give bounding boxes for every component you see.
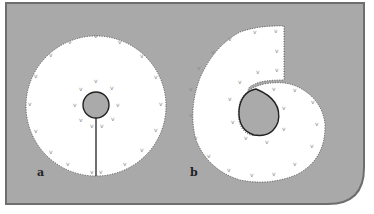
svg-text:v: v xyxy=(94,32,98,39)
svg-text:v: v xyxy=(34,72,38,79)
svg-text:v: v xyxy=(293,86,297,93)
panel-label-b: b xyxy=(190,166,198,179)
svg-text:v: v xyxy=(123,160,127,167)
svg-text:v: v xyxy=(49,51,53,58)
svg-text:v: v xyxy=(73,101,77,108)
svg-text:v: v xyxy=(250,171,254,178)
svg-text:v: v xyxy=(282,125,286,132)
svg-text:v: v xyxy=(28,100,32,107)
svg-text:v: v xyxy=(159,100,163,107)
svg-text:v: v xyxy=(275,47,279,54)
svg-text:v: v xyxy=(118,38,122,45)
svg-text:v: v xyxy=(90,168,94,175)
svg-text:v: v xyxy=(90,122,94,129)
svg-text:v: v xyxy=(79,85,83,92)
svg-text:v: v xyxy=(227,166,231,173)
svg-text:v: v xyxy=(282,104,286,111)
svg-text:v: v xyxy=(244,134,248,141)
svg-text:v: v xyxy=(272,85,276,92)
svg-text:v: v xyxy=(189,85,193,92)
svg-text:v: v xyxy=(68,38,72,45)
svg-text:v: v xyxy=(66,160,70,167)
svg-text:v: v xyxy=(154,73,158,80)
svg-text:v: v xyxy=(256,68,260,75)
svg-text:v: v xyxy=(197,64,201,71)
svg-text:v: v xyxy=(99,168,103,175)
svg-text:v: v xyxy=(34,127,38,134)
figure: v v v v v v v v v v v v v v v v v v v v … xyxy=(0,0,374,214)
svg-text:v: v xyxy=(111,115,115,122)
svg-text:v: v xyxy=(275,66,279,73)
svg-text:v: v xyxy=(211,48,215,55)
svg-text:v: v xyxy=(310,142,314,149)
svg-text:v: v xyxy=(265,138,269,145)
svg-text:v: v xyxy=(49,148,53,155)
svg-text:v: v xyxy=(79,116,83,123)
svg-text:v: v xyxy=(228,35,232,42)
central-hole-a xyxy=(83,92,109,118)
svg-text:v: v xyxy=(231,118,235,125)
svg-text:v: v xyxy=(116,101,120,108)
svg-text:v: v xyxy=(272,170,276,177)
svg-text:v: v xyxy=(140,52,144,59)
svg-text:v: v xyxy=(238,78,242,85)
svg-text:v: v xyxy=(293,160,297,167)
svg-text:v: v xyxy=(253,28,257,35)
svg-text:v: v xyxy=(100,122,104,129)
svg-text:v: v xyxy=(94,77,98,84)
svg-text:v: v xyxy=(189,111,193,118)
svg-text:v: v xyxy=(194,134,198,141)
svg-text:v: v xyxy=(228,95,232,102)
svg-text:v: v xyxy=(154,126,158,133)
panel-label-a: a xyxy=(37,166,44,179)
svg-text:v: v xyxy=(274,27,278,34)
svg-text:v: v xyxy=(315,120,319,127)
svg-text:v: v xyxy=(140,146,144,153)
svg-text:v: v xyxy=(207,152,211,159)
svg-text:v: v xyxy=(311,98,315,105)
svg-text:v: v xyxy=(110,84,114,91)
